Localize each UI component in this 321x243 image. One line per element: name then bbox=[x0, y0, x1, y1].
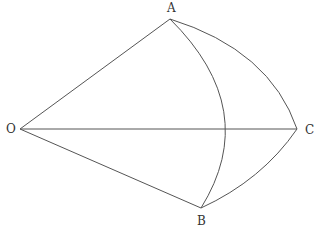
label-B: B bbox=[197, 214, 206, 228]
label-O: O bbox=[6, 122, 16, 136]
arc-AB bbox=[170, 19, 225, 208]
label-C: C bbox=[305, 123, 314, 137]
segment-OB bbox=[20, 129, 201, 208]
arc-CB bbox=[201, 129, 297, 208]
geometry-diagram: O A B C bbox=[0, 0, 321, 243]
label-A: A bbox=[166, 1, 176, 15]
segment-OA bbox=[20, 19, 170, 129]
arc-AC bbox=[170, 19, 297, 129]
